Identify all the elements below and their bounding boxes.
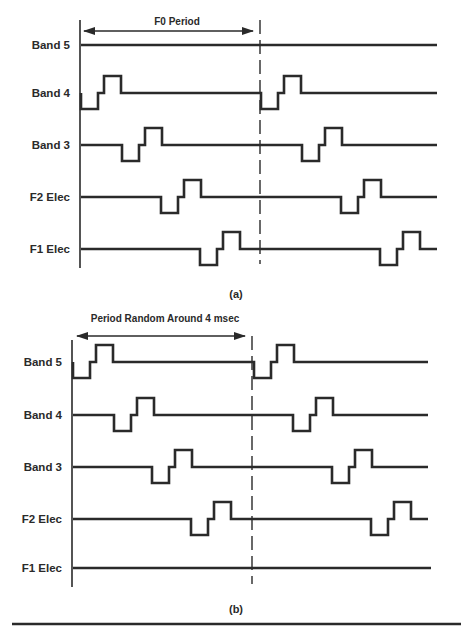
channel-pulse-trace: [73, 345, 428, 378]
channel-pulse-trace: [81, 76, 437, 109]
channel-pulse-trace: [73, 450, 428, 483]
channel-label: Band 3: [32, 139, 70, 151]
channel-label: Band 4: [32, 87, 71, 99]
channel-label: Band 3: [24, 461, 62, 473]
channel-label: Band 5: [24, 356, 63, 368]
panel-caption: (b): [229, 603, 243, 615]
channel-pulse-trace: [81, 180, 437, 213]
panel-b-random-period: Period Random Around 4 msecBand 5Band 4B…: [22, 313, 431, 615]
stimulation-timing-diagram: F0 PeriodBand 5Band 4Band 3F2 ElecF1 Ele…: [0, 0, 461, 636]
channel-pulse-trace: [73, 502, 428, 535]
channel-pulse-trace: [81, 128, 437, 161]
channel-pulse-trace: [73, 398, 428, 431]
period-label: F0 Period: [154, 16, 200, 27]
period-label: Period Random Around 4 msec: [91, 313, 240, 324]
channel-label: F1 Elec: [30, 243, 71, 255]
panel-caption: (a): [229, 288, 243, 300]
channel-label: F1 Elec: [22, 562, 63, 574]
channel-label: F2 Elec: [30, 191, 71, 203]
channel-label: Band 5: [32, 39, 71, 51]
panel-a-fixed-rate: F0 PeriodBand 5Band 4Band 3F2 ElecF1 Ele…: [30, 16, 437, 300]
channel-label: F2 Elec: [22, 513, 63, 525]
channel-pulse-trace: [81, 232, 437, 265]
channel-label: Band 4: [24, 409, 63, 421]
